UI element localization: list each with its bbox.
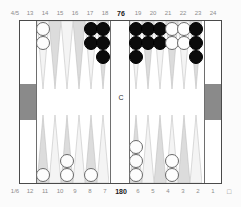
bottom-label-12: 12	[23, 186, 37, 197]
top-label-16: 16	[68, 8, 82, 19]
point-15[interactable]	[61, 21, 73, 89]
right-half	[130, 21, 203, 183]
bottom-label-2: 2	[191, 186, 205, 197]
bottom-label-3: 3	[176, 186, 190, 197]
top-label-23: 23	[191, 8, 205, 19]
left-half	[37, 21, 110, 183]
bottom-pip-count: 180	[109, 186, 133, 197]
top-label-22: 22	[176, 8, 190, 19]
left-bearoff-tray[interactable]	[20, 84, 36, 120]
checker-p12-1[interactable]	[36, 168, 50, 182]
bottom-label-8: 8	[83, 186, 97, 197]
checker-p6-3[interactable]	[129, 140, 143, 154]
center-bar[interactable]: C	[110, 21, 130, 183]
right-bearoff-tray[interactable]	[205, 84, 221, 120]
point-16[interactable]	[73, 21, 85, 89]
point-5[interactable]	[142, 115, 154, 183]
board-frame: C	[19, 20, 222, 184]
point-14[interactable]	[49, 21, 61, 89]
top-label-20: 20	[146, 8, 160, 19]
top-label-24: 24	[206, 8, 220, 19]
bottom-label-6: 6	[131, 186, 145, 197]
top-point-label-row: 4/5 13 14 15 16 17 18 76 19 20 21 22 23 …	[0, 8, 241, 19]
top-label-14: 14	[38, 8, 52, 19]
checker-p18-2[interactable]	[96, 36, 110, 50]
checker-p8-1[interactable]	[84, 168, 98, 182]
bottom-label-9: 9	[68, 186, 82, 197]
bottom-label-10: 10	[53, 186, 67, 197]
checker-p10-1[interactable]	[60, 168, 74, 182]
top-label-15: 15	[53, 8, 67, 19]
checker-p18-3[interactable]	[96, 50, 110, 64]
checker-p24-3[interactable]	[189, 50, 203, 64]
bottom-point-label-row: 1/6 12 11 10 9 8 7 180 6 5 4 3 2 1 □	[0, 186, 241, 197]
checker-p3-2[interactable]	[165, 154, 179, 168]
point-1[interactable]	[190, 115, 202, 183]
checker-p10-2[interactable]	[60, 154, 74, 168]
top-label-18: 18	[98, 8, 112, 19]
right-tray-column	[204, 21, 221, 183]
checker-p6-1[interactable]	[129, 168, 143, 182]
bottom-label-4: 4	[161, 186, 175, 197]
bottom-label-5: 5	[146, 186, 160, 197]
checker-p24-2[interactable]	[189, 36, 203, 50]
checker-p19-3[interactable]	[129, 50, 143, 64]
bar-cube-label: C	[111, 93, 131, 102]
top-pip-count: 76	[111, 8, 131, 19]
checker-p18-1[interactable]	[96, 22, 110, 36]
checker-p24-1[interactable]	[189, 22, 203, 36]
bottom-right-marker-icon: □	[222, 186, 236, 197]
point-2[interactable]	[178, 115, 190, 183]
checker-p13-1[interactable]	[36, 22, 50, 36]
top-label-13: 13	[23, 8, 37, 19]
checker-p13-2[interactable]	[36, 36, 50, 50]
checker-p3-1[interactable]	[165, 168, 179, 182]
top-label-19: 19	[131, 8, 145, 19]
bottom-label-11: 11	[38, 186, 52, 197]
checker-p6-2[interactable]	[129, 154, 143, 168]
left-tray-column	[20, 21, 37, 183]
point-7[interactable]	[97, 115, 109, 183]
top-label-21: 21	[161, 8, 175, 19]
backgammon-board-diagram: 4/5 13 14 15 16 17 18 76 19 20 21 22 23 …	[0, 0, 241, 207]
top-label-17: 17	[83, 8, 97, 19]
bottom-label-1: 1	[206, 186, 220, 197]
